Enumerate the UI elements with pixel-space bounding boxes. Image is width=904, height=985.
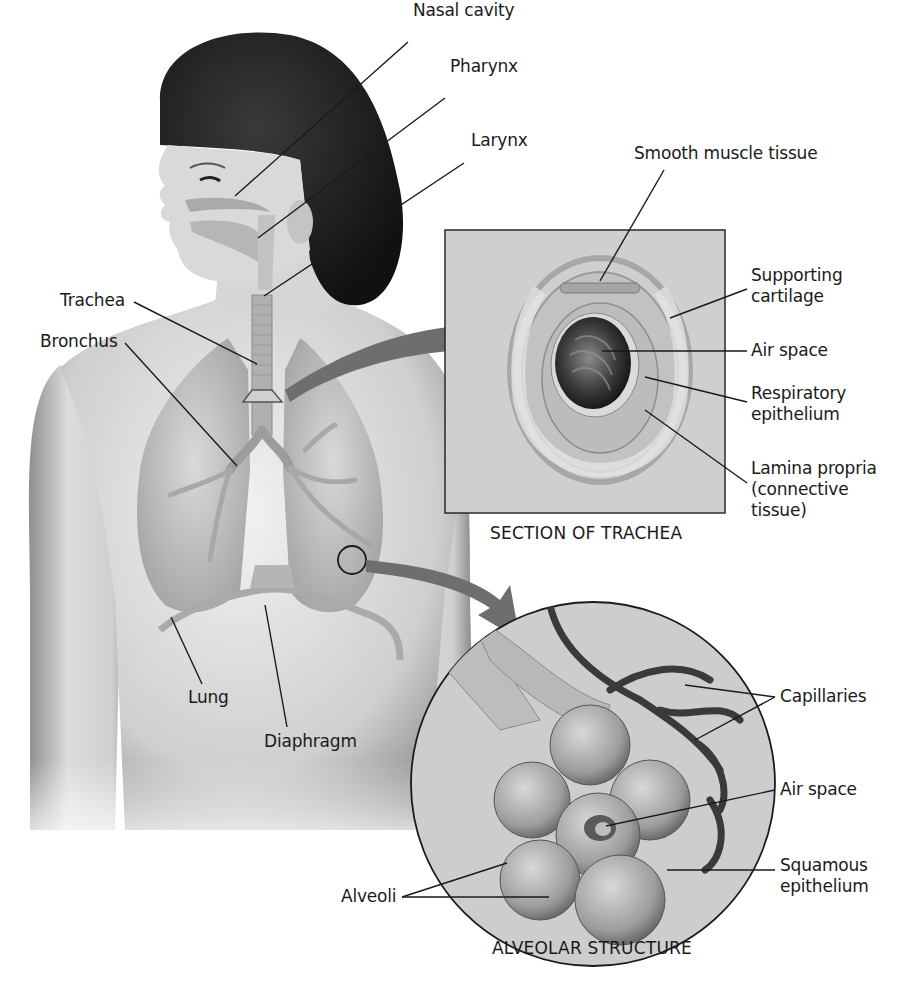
label-alveolar-air-space: Air space: [780, 779, 857, 800]
caption-alveolar-structure: ALVEOLAR STRUCTURE: [492, 938, 692, 958]
label-trachea: Trachea: [60, 290, 125, 311]
caption-section-of-trachea: SECTION OF TRACHEA: [490, 523, 682, 543]
label-respiratory-epithelium: Respiratory epithelium: [751, 383, 846, 425]
label-diaphragm: Diaphragm: [264, 731, 357, 752]
label-supporting-cartilage: Supporting cartilage: [751, 265, 843, 307]
human-figure: [0, 33, 480, 860]
label-trachea-air-space: Air space: [751, 340, 828, 361]
label-larynx: Larynx: [471, 130, 528, 151]
label-pharynx: Pharynx: [450, 56, 518, 77]
alveolar-section-circle: [411, 602, 775, 966]
label-bronchus: Bronchus: [40, 331, 118, 352]
label-smooth-muscle-tissue: Smooth muscle tissue: [634, 143, 817, 164]
label-nasal-cavity: Nasal cavity: [413, 0, 514, 21]
label-capillaries: Capillaries: [780, 686, 867, 707]
label-lamina-propria: Lamina propria (connective tissue): [751, 458, 877, 521]
label-alveoli: Alveoli: [341, 886, 396, 907]
respiratory-system-diagram: Nasal cavity Pharynx Larynx Trachea Bron…: [0, 0, 904, 985]
label-lung: Lung: [188, 687, 229, 708]
trachea-section-panel: [445, 230, 725, 513]
label-squamous-epithelium: Squamous epithelium: [780, 855, 869, 897]
